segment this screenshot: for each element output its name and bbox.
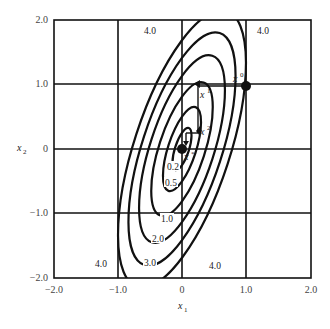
svg-text:1: 1	[184, 306, 188, 314]
x-axis-label: x	[177, 300, 183, 311]
contour-label-4.0-top-left: 4.0	[144, 26, 156, 36]
svg-text:−1.0: −1.0	[30, 207, 48, 218]
svg-text:2: 2	[207, 124, 211, 132]
contour-label-0.2: 0.2	[167, 162, 179, 172]
contour-label-2.0: 2.0	[152, 234, 164, 244]
svg-text:1: 1	[207, 87, 211, 95]
contour-label-4.0-bottom-left: 4.0	[95, 259, 107, 269]
svg-text:−1.0: −1.0	[109, 284, 127, 295]
x-axis-ticks: −2.0 −1.0 0 1.0 2.0	[45, 284, 317, 295]
svg-text:0: 0	[180, 284, 185, 295]
label-x2: x	[199, 126, 205, 137]
contour-label-0.5: 0.5	[165, 178, 177, 188]
svg-text:0: 0	[43, 143, 48, 154]
contour-label-4.0-top-right: 4.0	[257, 26, 269, 36]
y-axis-ticks: 2.0 1.0 0 −1.0 −2.0	[30, 14, 48, 283]
svg-text:2.0: 2.0	[36, 14, 49, 25]
label-x0: x	[232, 73, 238, 84]
svg-text:2.0: 2.0	[305, 284, 318, 295]
label-x-star: x	[183, 151, 189, 162]
point-x0	[241, 81, 251, 91]
svg-text:0: 0	[240, 71, 244, 79]
svg-text:2: 2	[23, 148, 27, 156]
y-axis-label: x	[16, 142, 22, 153]
contour-plot: x 0 x 1 x 2 x * 0.2 0.5 1.0 2.0 3.0 4.0 …	[0, 0, 330, 329]
contour-label-4.0-bottom-right: 4.0	[209, 261, 221, 271]
svg-text:−2.0: −2.0	[30, 272, 48, 283]
svg-text:−2.0: −2.0	[45, 284, 63, 295]
svg-text:1.0: 1.0	[240, 284, 253, 295]
svg-text:*: *	[191, 150, 195, 158]
contour-label-1.0: 1.0	[161, 214, 173, 224]
contour-label-3.0: 3.0	[144, 258, 156, 268]
label-x1: x	[199, 89, 205, 100]
svg-text:1.0: 1.0	[36, 78, 49, 89]
arrow-icon	[194, 80, 200, 88]
